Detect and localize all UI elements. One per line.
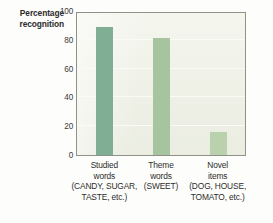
y-axis-tick-100: 100 (52, 8, 73, 16)
y-axis-tick-60: 60 (52, 66, 73, 74)
x-label-line: Novel (170, 160, 266, 171)
x-label-line: TASTE, etc.) (56, 192, 152, 203)
plot-area (76, 12, 246, 156)
bar-theme-words (153, 38, 170, 155)
x-label-novel-items: Novelitems(DOG, HOUSE,TOMATO, etc.) (170, 160, 266, 202)
x-label-line: TOMATO, etc.) (170, 192, 266, 203)
chart-figure: Percentage recognition 100806040200 Stud… (0, 0, 273, 223)
y-axis-tick-80: 80 (52, 37, 73, 45)
y-axis-tick-40: 40 (52, 94, 73, 102)
bar-studied-words (96, 27, 113, 155)
y-axis-tick-labels: 100806040200 (52, 12, 73, 156)
y-axis-tick-0: 0 (52, 152, 73, 160)
x-label-line: (DOG, HOUSE, (170, 181, 266, 192)
x-label-line: items (170, 171, 266, 182)
x-axis-category-labels: Studiedwords(CANDY, SUGAR,TASTE, etc.)Th… (0, 160, 273, 222)
y-axis-tick-20: 20 (52, 123, 73, 131)
bar-novel-items (210, 132, 227, 155)
